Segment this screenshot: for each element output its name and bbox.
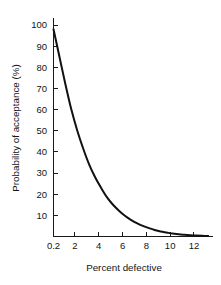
x-tick-label: 0.2 bbox=[47, 240, 60, 251]
y-tick-marks bbox=[54, 25, 59, 215]
y-axis-group: 102030405060708090100 bbox=[31, 18, 58, 237]
x-tick-label: 4 bbox=[96, 240, 101, 251]
probability-of-acceptance-curve bbox=[54, 29, 209, 236]
x-axis-title: Percent defective bbox=[86, 262, 162, 273]
chart-figure: 102030405060708090100 0.224681012 Percen… bbox=[0, 0, 221, 285]
y-tick-label: 50 bbox=[36, 125, 47, 136]
y-tick-label: 40 bbox=[36, 146, 47, 157]
y-tick-label: 80 bbox=[36, 62, 47, 73]
oc-curve-chart: 102030405060708090100 0.224681012 Percen… bbox=[0, 0, 221, 285]
y-tick-label: 20 bbox=[36, 189, 47, 200]
x-tick-labels: 0.224681012 bbox=[47, 240, 199, 251]
x-tick-label: 2 bbox=[72, 240, 77, 251]
y-tick-label: 30 bbox=[36, 167, 47, 178]
x-tick-label: 12 bbox=[189, 240, 200, 251]
y-tick-label: 10 bbox=[36, 210, 47, 221]
x-tick-label: 6 bbox=[120, 240, 125, 251]
y-tick-label: 100 bbox=[31, 19, 47, 30]
x-tick-label: 10 bbox=[165, 240, 176, 251]
y-tick-label: 70 bbox=[36, 83, 47, 94]
y-tick-label: 90 bbox=[36, 41, 47, 52]
y-axis-title: Probability of acceptance (%) bbox=[10, 64, 21, 191]
x-tick-label: 8 bbox=[144, 240, 149, 251]
y-tick-labels: 102030405060708090100 bbox=[31, 19, 47, 220]
y-tick-label: 60 bbox=[36, 104, 47, 115]
